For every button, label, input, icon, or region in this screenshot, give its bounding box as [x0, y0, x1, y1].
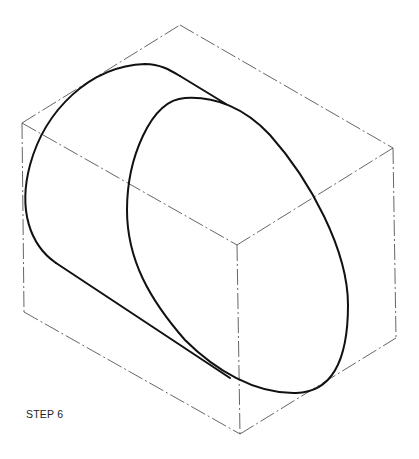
- box-edge-bottom-right: [240, 338, 396, 434]
- rear-ellipse: [127, 98, 348, 393]
- box-edge-left-vertical: [22, 123, 24, 312]
- top-tangent-line: [180, 76, 226, 104]
- front-ellipse-arc: [25, 64, 180, 263]
- cylinder-outline: [25, 64, 348, 393]
- bounding-box-phantom-lines: [22, 25, 396, 434]
- isometric-drawing: [0, 0, 419, 459]
- box-edge-front-vertical: [237, 245, 240, 434]
- box-edge-right-vertical: [393, 148, 396, 338]
- step-label: STEP 6: [26, 408, 63, 420]
- box-edge-right-front: [237, 148, 393, 245]
- box-edge-top-right: [180, 25, 393, 148]
